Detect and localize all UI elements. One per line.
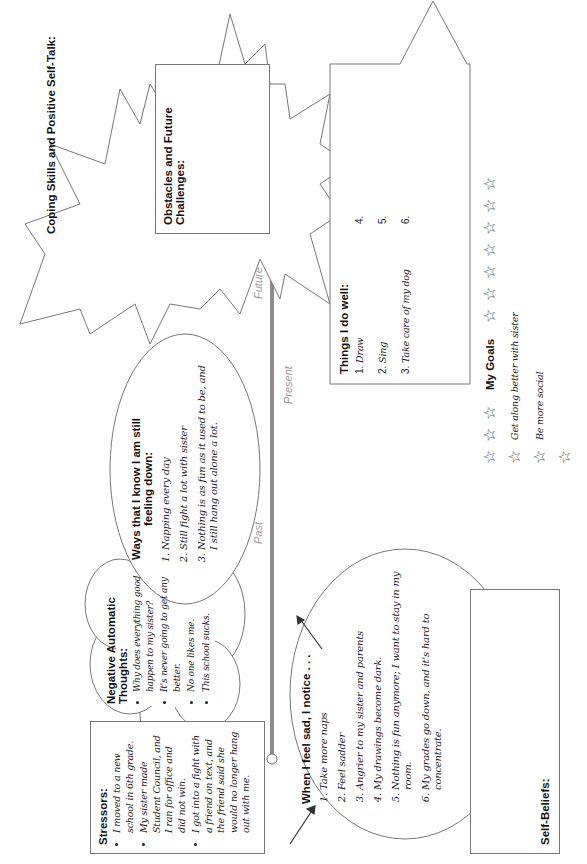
goals-title: My Goals xyxy=(484,339,496,390)
star-icon: ☆ xyxy=(480,199,499,213)
when-sad-item: Take more naps xyxy=(318,564,330,790)
things-well-item: 1. Draw xyxy=(354,224,365,374)
star-icon: ☆ xyxy=(480,243,499,257)
still-down-title: Ways that I know I am still feeling down… xyxy=(130,414,154,564)
negative-thought-item: No one likes me. xyxy=(185,564,198,692)
self-beliefs-box: Self-Beliefs: xyxy=(470,589,560,854)
timeline-start-dot xyxy=(267,754,277,764)
when-sad-block: When I feel sad, I notice . . . Take mor… xyxy=(300,564,450,804)
negative-thoughts-block: Negative Automatic Thoughts: Why does ev… xyxy=(105,564,214,704)
star-icon: ☆ xyxy=(530,450,549,464)
when-sad-item: Nothing is fun anymore; I want to stay i… xyxy=(390,564,414,790)
star-icon: ☆ xyxy=(480,265,499,279)
negative-thought-item: It's never going to get any better. xyxy=(158,564,183,692)
stressor-item: I moved to a new school in 6th grade. xyxy=(111,730,136,833)
when-sad-item: Feel sadder xyxy=(336,564,348,790)
things-well-item: 6. xyxy=(400,124,411,224)
when-sad-item: Angrier to my sister and parents xyxy=(354,564,366,790)
still-down-item: Napping every day xyxy=(160,364,172,550)
stressor-item: I got into a fight with a friend on text… xyxy=(190,730,253,833)
goals-block: ☆ ☆ ☆ My Goals ☆ ☆ ☆ ☆ ☆ ☆ ☆ ☆ Get along… xyxy=(480,4,574,464)
negative-thought-item: Why does everything good happen to my si… xyxy=(131,564,156,692)
when-sad-item: My drawings become dark. xyxy=(372,564,384,790)
still-down-block: Ways that I know I am still feeling down… xyxy=(130,364,226,564)
things-well-title: Things I do well: xyxy=(338,74,350,374)
things-well-item: 4. xyxy=(354,124,365,224)
timeline-label-present: Present xyxy=(282,366,294,404)
stressors-box: Stressors: I moved to a new school in 6t… xyxy=(90,721,265,854)
things-well-item: 3. Take care of my dog xyxy=(400,224,411,374)
star-icon: ☆ xyxy=(480,428,499,442)
still-down-item: Nothing is as fun as it used to be, and … xyxy=(196,364,220,550)
star-icon: ☆ xyxy=(480,287,499,301)
star-icon: ☆ xyxy=(505,450,524,464)
star-icon: ☆ xyxy=(480,406,499,420)
when-sad-title: When I feel sad, I notice . . . xyxy=(300,564,312,804)
timeline-label-past: Past xyxy=(252,522,264,544)
stressor-item: My sister made Student Council, and I ra… xyxy=(138,730,188,833)
star-icon: ☆ xyxy=(480,221,499,235)
obstacles-box: Obstacles and Future Challenges: xyxy=(155,64,270,234)
star-icon: ☆ xyxy=(555,450,574,464)
when-sad-item: My grades go down, and it's hard to conc… xyxy=(420,564,444,790)
negative-thoughts-title: Negative Automatic Thoughts: xyxy=(105,564,129,704)
negative-thought-item: This school sucks. xyxy=(200,564,213,692)
star-icon: ☆ xyxy=(480,450,499,464)
things-well-item: 5. xyxy=(377,124,388,224)
stressors-title: Stressors: xyxy=(97,730,109,845)
obstacles-title: Obstacles and Future Challenges: xyxy=(162,73,186,225)
goal-item: Get along better with sister xyxy=(509,312,520,440)
goal-item: Be more social xyxy=(534,372,545,440)
still-down-item: Still fight a lot with sister xyxy=(178,364,190,550)
things-well-block: Things I do well: 1. Draw 4. 2. Sing 5. … xyxy=(338,74,411,374)
timeline-label-future: Future xyxy=(252,267,264,299)
worksheet-stage: Stressors: I moved to a new school in 6t… xyxy=(0,0,587,864)
star-icon: ☆ xyxy=(480,177,499,191)
coping-title: Coping Skills and Positive Self-Talk: xyxy=(45,4,57,234)
star-icon: ☆ xyxy=(480,309,499,323)
things-well-item: 2. Sing xyxy=(377,224,388,374)
self-beliefs-title: Self-Beliefs: xyxy=(539,779,551,845)
worksheet-page-rotated: Stressors: I moved to a new school in 6t… xyxy=(0,0,587,864)
